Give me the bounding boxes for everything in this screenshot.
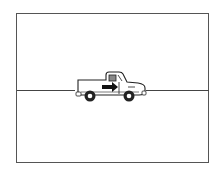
road-line-left [17, 90, 75, 91]
road-line-right [146, 90, 209, 91]
cab-window [109, 75, 116, 81]
pickup-truck-icon [75, 70, 147, 104]
